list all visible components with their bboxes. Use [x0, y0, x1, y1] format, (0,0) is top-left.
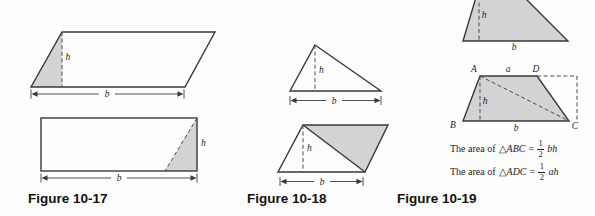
fig17-parallelogram-height-label: h — [66, 52, 71, 62]
fraction-denominator: 2 — [540, 173, 544, 182]
formula-abc-tail: bh — [547, 143, 557, 154]
fig17-rectangle-base-dimension-arrow: b — [41, 173, 197, 183]
fig17-rectangle: h b — [41, 118, 206, 183]
fig19-vertex-a-label: A — [470, 64, 477, 74]
formula-adc-prefix: The area of — [450, 166, 496, 177]
fig19-top-side-label: a — [506, 64, 511, 74]
fig19-bottom-trapezoid-base-label: b — [514, 123, 519, 133]
fig17-parallelogram-base-dimension-arrow: b — [31, 89, 184, 99]
area-formula-adc: The area of △ADC = 1 2 ah — [450, 162, 558, 182]
fraction-numerator: 1 — [537, 139, 544, 150]
fraction-denominator: 2 — [539, 150, 543, 159]
fig18-triangle-height-label: h — [319, 65, 324, 75]
fig18-parallelogram: h b — [278, 125, 388, 187]
fig19-top-trapezoid: h b — [463, 0, 568, 52]
fig17-rectangle-base-label: b — [117, 173, 122, 183]
fig19-vertex-d-label: D — [532, 64, 540, 74]
diagram-canvas: h b h b — [0, 0, 595, 216]
fig17-parallelogram-base-label: b — [105, 89, 110, 99]
fig18-parallelogram-base-label: b — [320, 177, 325, 187]
figure-10-18-caption: Figure 10-18 — [247, 191, 327, 206]
formula-abc-prefix: The area of — [450, 143, 496, 154]
fig17-parallelogram: h b — [31, 32, 215, 99]
figure-10-19-caption: Figure 10-19 — [397, 191, 477, 206]
triangle-symbol: △ — [499, 166, 507, 177]
fig18-parallelogram-height-label: h — [307, 143, 312, 153]
formula-adc-tail: ah — [548, 166, 558, 177]
figure-10-17-caption: Figure 10-17 — [28, 191, 108, 206]
fraction-one-half: 1 2 — [538, 162, 545, 182]
fig17-rectangle-height-label: h — [201, 138, 206, 148]
fig19-top-trapezoid-base-label: b — [512, 42, 517, 52]
formula-adc-triangle-term: △ADC — [499, 166, 527, 177]
fig19-vertex-b-label: B — [450, 120, 456, 130]
fig18-parallelogram-shaded-triangle — [303, 125, 388, 172]
formula-abc-equals: = — [528, 143, 534, 154]
fig19-bottom-trapezoid-outline — [463, 76, 569, 121]
fig18-triangle-outline — [290, 45, 381, 91]
formula-adc-equals: = — [530, 166, 536, 177]
triangle-symbol: △ — [499, 143, 507, 154]
fraction-numerator: 1 — [538, 162, 545, 173]
area-formula-abc: The area of △ABC = 1 2 bh — [450, 139, 557, 159]
fig19-bottom-trapezoid-height-label: h — [483, 96, 488, 106]
fig18-triangle: h b — [290, 45, 381, 106]
fig19-bottom-trapezoid: A a D B C b h — [450, 64, 579, 133]
fig18-triangle-base-label: b — [332, 96, 337, 106]
fig19-top-trapezoid-height-label: h — [482, 10, 487, 20]
fig18-triangle-base-dimension-arrow: b — [290, 96, 381, 106]
triangle-name-adc: ADC — [507, 166, 527, 177]
textbook-figure-panel: h b h b — [0, 0, 595, 216]
fig18-parallelogram-base-dimension-arrow: b — [280, 177, 363, 187]
formula-abc-triangle-term: △ABC — [499, 143, 526, 154]
fig19-vertex-c-label: C — [572, 121, 579, 131]
triangle-name-abc: ABC — [507, 143, 526, 154]
fraction-one-half: 1 2 — [537, 139, 544, 159]
